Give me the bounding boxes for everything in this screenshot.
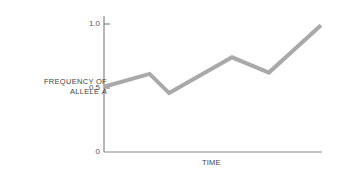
y-axis-label-line1: FREQUENCY OF <box>44 77 107 87</box>
y-axis-label-allele-symbol: A <box>102 87 107 96</box>
x-axis-label: TIME <box>202 158 221 167</box>
y-axis-label-allele: ALLELE <box>70 87 99 96</box>
y-axis-label-line2: ALLELE A <box>44 87 107 97</box>
frequency-line <box>104 25 321 93</box>
y-axis-label: FREQUENCY OF ALLELE A <box>44 77 107 97</box>
y-tick-label-0: 0 <box>80 147 100 156</box>
y-tick-label-1: 1.0 <box>80 19 100 28</box>
allele-frequency-chart: 1.0 0.5 0 FREQUENCY OF ALLELE A TIME <box>0 0 339 174</box>
